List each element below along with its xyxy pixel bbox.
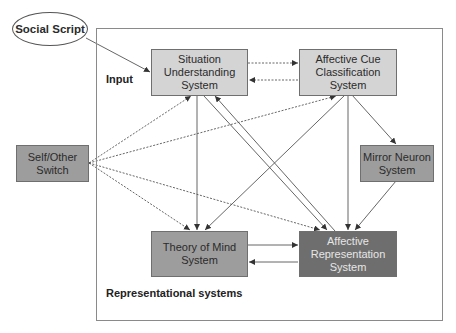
social-script-label: Social Script [15, 23, 85, 35]
social-script-node: Social Script [12, 12, 88, 46]
theory-of-mind-label: Theory of Mind System [163, 241, 236, 267]
mirror-neuron-label: Mirror Neuron System [363, 151, 431, 177]
input-section-label: Input [106, 73, 133, 85]
self-other-switch-label: Self/Other Switch [28, 151, 78, 177]
self-other-switch-node: Self/Other Switch [16, 145, 89, 182]
affective-cue-label: Affective Cue Classification System [315, 53, 380, 92]
affective-cue-node: Affective Cue Classification System [299, 49, 397, 96]
representational-section-label: Representational systems [106, 287, 242, 299]
affective-representation-label: Affective Representation System [311, 235, 386, 274]
situation-understanding-node: Situation Understanding System [151, 49, 248, 96]
theory-of-mind-node: Theory of Mind System [151, 231, 248, 277]
affective-representation-node: Affective Representation System [299, 231, 397, 277]
mirror-neuron-node: Mirror Neuron System [360, 145, 434, 182]
situation-understanding-label: Situation Understanding System [164, 53, 236, 92]
